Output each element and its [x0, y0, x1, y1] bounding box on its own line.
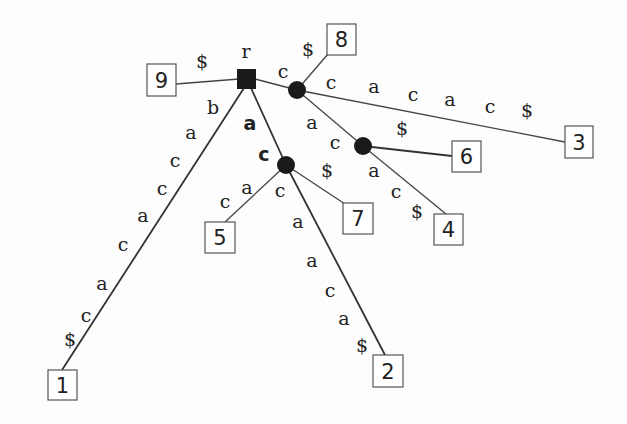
edge-label: c [258, 143, 269, 165]
leaf-label: 7 [351, 207, 364, 231]
internal-node-B [354, 137, 372, 155]
edge-label: a [292, 210, 303, 232]
leaf-9: 9 [147, 64, 176, 96]
root-node [237, 69, 256, 89]
root-label: r [241, 40, 251, 62]
leaf-6: 6 [452, 141, 481, 172]
edge-label: c [170, 149, 181, 171]
edge-label: a [368, 159, 379, 181]
edge-label: a [137, 204, 148, 226]
edge-label: $ [196, 50, 208, 72]
edge-label: $ [302, 38, 314, 60]
edge-label: $ [321, 159, 333, 181]
edge-label: c [278, 60, 289, 82]
leaf-4: 4 [434, 214, 463, 245]
leaf-3: 3 [565, 126, 593, 158]
edge-label: c [275, 179, 286, 201]
leaf-label: 9 [155, 69, 168, 93]
edge-label: c [326, 71, 337, 93]
edge-label: a [368, 75, 379, 97]
edge-label: c [325, 279, 336, 301]
edge-label: $ [411, 200, 423, 222]
tree-svg: r $ b a c c a c a c $ a c c $ c a c a c … [0, 0, 627, 424]
edge-label: c [118, 233, 129, 255]
edge-label: a [338, 307, 349, 329]
leaf-label: 2 [381, 360, 394, 384]
suffix-tree-diagram: r $ b a c c a c a c $ a c c $ c a c a c … [0, 0, 627, 424]
edge-label: a [306, 249, 317, 271]
leaf-7: 7 [343, 203, 373, 234]
edge-label: c [330, 131, 341, 153]
leaf-label: 1 [56, 374, 69, 398]
edge-label: a [185, 121, 196, 143]
leaf-label: 3 [572, 131, 585, 155]
edge-label: a [244, 112, 257, 134]
edge-label: c [408, 83, 419, 105]
edge-B-6 [363, 146, 452, 156]
leaf-1: 1 [48, 370, 77, 400]
edge-label: $ [356, 334, 368, 356]
leaf-label: 8 [335, 28, 348, 52]
edge-C-2 [286, 165, 385, 355]
edge-label: $ [396, 117, 408, 139]
edge-label: c [391, 180, 402, 202]
edge-r-9 [176, 79, 239, 84]
leaf-2: 2 [373, 355, 403, 387]
leaf-label: 4 [442, 218, 455, 242]
edge-label: b [207, 96, 219, 118]
edge-label: c [485, 95, 496, 117]
edge-C-7 [286, 165, 345, 204]
edge-label: $ [521, 99, 533, 121]
leaf-label: 5 [213, 226, 226, 250]
edge-label: c [81, 304, 92, 326]
edge-label: a [96, 272, 107, 294]
leaf-8: 8 [327, 24, 356, 55]
internal-node-C [277, 156, 295, 174]
edge-label: $ [64, 328, 76, 350]
leaf-label: 6 [460, 145, 473, 169]
edge-label: c [157, 177, 168, 199]
edge-label: c [220, 190, 231, 212]
internal-node-A [288, 81, 306, 99]
edge-label: a [444, 88, 455, 110]
edge-label: a [241, 176, 252, 198]
leaf-5: 5 [205, 222, 235, 253]
edge-label: a [306, 111, 317, 133]
